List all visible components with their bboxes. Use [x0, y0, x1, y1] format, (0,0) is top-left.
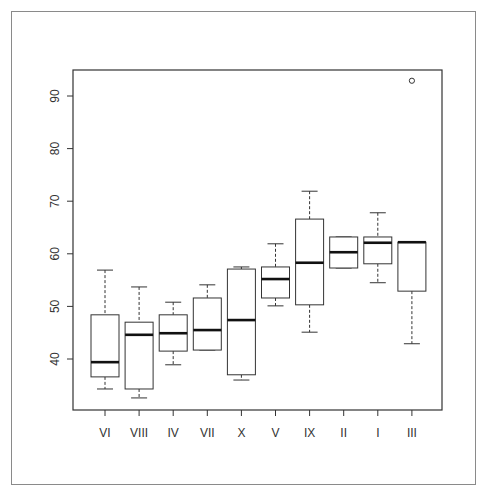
box-iqr	[398, 242, 426, 291]
box-iqr	[125, 322, 153, 389]
y-tick-label: 90	[48, 89, 62, 103]
y-tick-label: 80	[48, 142, 62, 156]
box-V	[262, 244, 290, 306]
boxplot-chart: 405060708090 VIVIIIIVVIIXVIXIIIIII	[0, 0, 486, 493]
box-iqr	[364, 237, 392, 264]
x-tick-label: II	[340, 426, 347, 440]
y-tick-label: 40	[48, 352, 62, 366]
box-III	[398, 78, 426, 344]
boxes-group	[91, 78, 426, 398]
box-iqr	[193, 298, 221, 350]
box-iqr	[91, 315, 119, 377]
x-axis: VIVIIIIVVIIXVIXIIIIII	[99, 410, 417, 440]
box-I	[364, 213, 392, 283]
box-iqr	[262, 267, 290, 298]
y-tick-label: 70	[48, 194, 62, 208]
x-tick-label: VI	[99, 426, 110, 440]
y-axis: 405060708090	[48, 89, 73, 366]
outlier-point	[409, 78, 414, 83]
x-tick-label: VIII	[130, 426, 148, 440]
box-iqr	[227, 269, 255, 375]
x-tick-label: V	[271, 426, 279, 440]
x-tick-label: X	[237, 426, 245, 440]
y-tick-label: 50	[48, 299, 62, 313]
box-VI	[91, 270, 119, 389]
x-tick-label: IV	[168, 426, 179, 440]
box-VII	[193, 285, 221, 350]
x-tick-label: VII	[200, 426, 215, 440]
x-tick-label: I	[376, 426, 379, 440]
y-tick-label: 60	[48, 247, 62, 261]
x-tick-label: IX	[304, 426, 315, 440]
box-X	[227, 267, 255, 380]
box-IX	[296, 191, 324, 332]
box-II	[330, 237, 358, 268]
box-IV	[159, 302, 187, 365]
box-VIII	[125, 287, 153, 398]
x-tick-label: III	[407, 426, 417, 440]
